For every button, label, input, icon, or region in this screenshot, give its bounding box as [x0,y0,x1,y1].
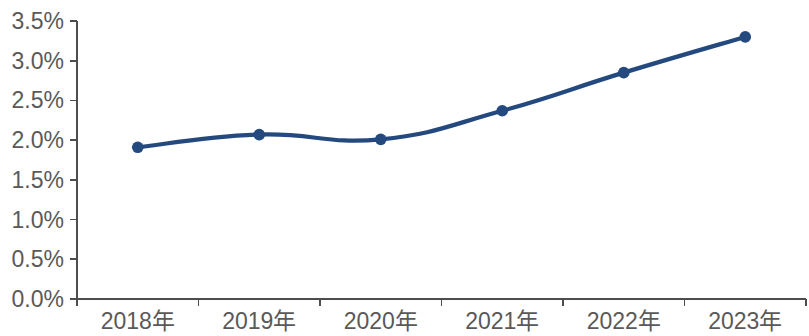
x-axis-tick-label: 2018年 [101,308,175,334]
y-axis-tick-label: 2.5% [12,87,64,113]
y-axis-tick-label: 0.5% [12,246,64,272]
series-line [138,37,746,147]
y-axis-tick-label: 3.0% [12,48,64,74]
x-axis-tick-label: 2023年 [708,308,782,334]
x-axis-tick-label: 2019年 [222,308,296,334]
data-point-marker [739,31,751,43]
x-axis-tick-label: 2020年 [344,308,418,334]
y-axis-tick-label: 2.0% [12,127,64,153]
y-axis-tick-label: 0.0% [12,286,64,312]
data-point-marker [375,134,387,146]
data-point-marker [132,141,144,153]
chart-canvas: 0.0%0.5%1.0%1.5%2.0%2.5%3.0%3.5%2018年201… [0,0,809,336]
y-axis-tick-label: 1.0% [12,207,64,233]
line-chart: 0.0%0.5%1.0%1.5%2.0%2.5%3.0%3.5%2018年201… [0,0,809,336]
y-axis-tick-label: 3.5% [12,8,64,34]
data-point-marker [496,105,508,117]
data-point-marker [253,129,265,141]
data-point-marker [618,67,630,79]
y-axis-tick-label: 1.5% [12,167,64,193]
x-axis-tick-label: 2021年 [465,308,539,334]
x-axis-tick-label: 2022年 [587,308,661,334]
